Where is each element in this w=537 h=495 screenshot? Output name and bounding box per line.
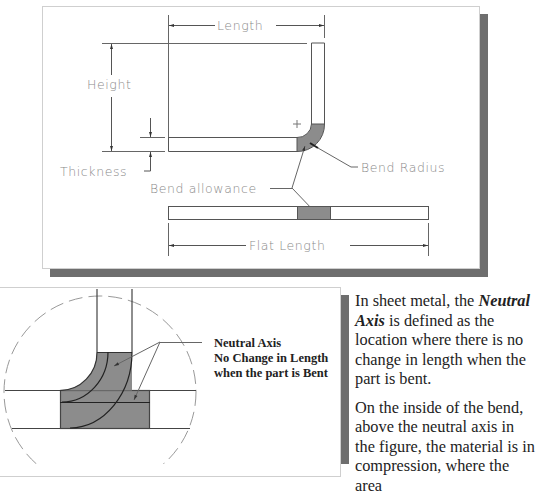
bend-radius-label: Bend Radius [361,160,445,175]
bend-allowance-label: Bend allowance [150,181,257,196]
height-label: Height [87,77,132,92]
neutral-axis-detail [4,289,196,464]
thickness-label: Thickness [60,164,127,179]
bend-region [297,124,325,152]
length-label: Length [217,18,263,33]
annotation-line-3: when the part is Bent [214,366,328,381]
annotation-line-1: Neutral Axis [214,336,328,351]
neutral-axis-annotation: Neutral Axis No Change in Length when th… [214,336,328,381]
bent-part-drawing [102,15,325,152]
paragraph-2: On the inside of the bend, above the neu… [355,398,537,495]
flat-length-label: Flat Length [249,238,325,253]
explanation-text: In sheet metal, the Neutral Axis is defi… [355,291,537,495]
annotation-line-2: No Change in Length [214,351,328,366]
bend-allowance-leader [270,146,314,211]
thickness-dimension [144,118,151,171]
paragraph-1: In sheet metal, the Neutral Axis is defi… [355,291,537,389]
bend-radius-leader [310,143,358,167]
